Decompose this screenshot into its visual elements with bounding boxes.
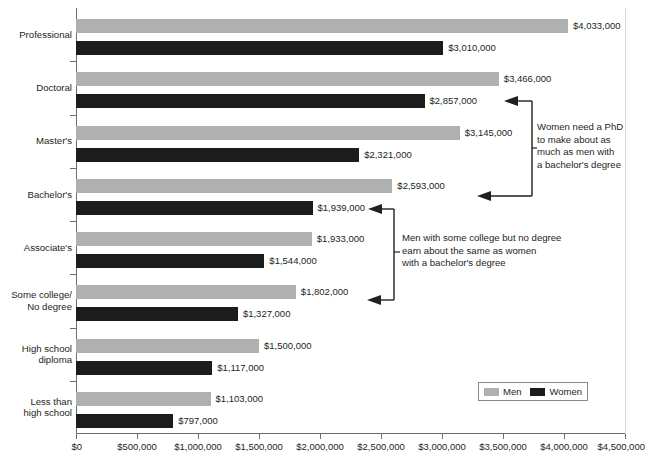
bar-men [76, 19, 568, 33]
bar-men [76, 72, 499, 86]
bar-value-label: $1,103,000 [216, 392, 264, 406]
bar-value-label: $3,010,000 [448, 41, 496, 55]
x-axis-tick [137, 434, 138, 439]
x-axis-tick [564, 434, 565, 439]
bar-men [76, 392, 211, 406]
y-axis-tick [70, 115, 76, 116]
category-label-text: High school diploma [4, 343, 72, 366]
bar-men [76, 232, 312, 246]
chart-legend: Men Women [478, 382, 588, 401]
bar-value-label: $1,802,000 [301, 285, 349, 299]
earnings-by-education-bar-chart: ProfessionalDoctoralMaster'sBachelor'sAs… [0, 0, 651, 466]
y-axis-tick [70, 168, 76, 169]
category-label-text: Doctoral [4, 82, 72, 93]
bar-value-label: $1,933,000 [317, 232, 365, 246]
bar-women [76, 41, 443, 55]
x-axis-tick [503, 434, 504, 439]
x-axis-tick-label: $1,500,000 [235, 441, 283, 452]
x-axis-tick [625, 434, 626, 439]
category-label-text: Some college/ No degree [4, 289, 72, 312]
bar-value-label: $3,145,000 [465, 126, 513, 140]
bar-women [76, 361, 212, 375]
bar-women [76, 148, 359, 162]
annotation-text-phd: Women need a PhD to make about as much a… [537, 121, 651, 171]
x-axis-tick-label: $2,000,000 [296, 441, 344, 452]
bar-men [76, 285, 296, 299]
category-label-text: Master's [4, 135, 72, 146]
bar-value-label: $2,593,000 [397, 179, 445, 193]
bar-women [76, 414, 173, 428]
legend-item-men: Men [484, 387, 521, 397]
x-axis-tick-label: $500,000 [117, 441, 157, 452]
bar-men [76, 339, 259, 353]
legend-label-men: Men [503, 387, 521, 397]
annotation-text-some-college: Men with some college but no degree earn… [402, 232, 602, 270]
bar-value-label: $797,000 [178, 414, 218, 428]
y-axis-tick [70, 274, 76, 275]
bar-women [76, 307, 238, 321]
x-axis-tick-label: $3,500,000 [479, 441, 527, 452]
x-axis-tick [76, 434, 77, 439]
y-axis-tick [70, 61, 76, 62]
bar-women [76, 201, 313, 215]
bar-value-label: $1,500,000 [264, 339, 312, 353]
legend-item-women: Women [530, 387, 582, 397]
bar-men [76, 126, 460, 140]
legend-label-women: Women [549, 387, 582, 397]
x-axis-tick [381, 434, 382, 439]
bar-value-label: $2,857,000 [430, 94, 478, 108]
category-label-text: Bachelor's [4, 189, 72, 200]
bar-men [76, 179, 392, 193]
category-label-text: Professional [4, 29, 72, 40]
x-axis-tick-label: $3,000,000 [418, 441, 466, 452]
bar-women [76, 94, 425, 108]
x-axis-tick [442, 434, 443, 439]
x-axis-tick-label: $1,000,000 [174, 441, 222, 452]
bar-value-label: $1,327,000 [243, 307, 291, 321]
bar-value-label: $1,544,000 [269, 254, 317, 268]
x-axis-tick-label: $4,500,000 [597, 441, 645, 452]
x-axis-tick-label: $4,000,000 [540, 441, 588, 452]
bar-value-label: $2,321,000 [364, 148, 412, 162]
bar-value-label: $1,939,000 [318, 201, 366, 215]
bar-value-label: $1,117,000 [217, 361, 264, 375]
y-axis-tick [70, 381, 76, 382]
x-axis-tick [198, 434, 199, 439]
y-axis-tick [70, 328, 76, 329]
y-axis-tick [70, 221, 76, 222]
x-axis-tick-label: $2,500,000 [357, 441, 405, 452]
category-label-text: Associate's [4, 242, 72, 253]
plot-area-right-edge [625, 8, 626, 434]
x-axis-tick [259, 434, 260, 439]
bar-value-label: $4,033,000 [573, 19, 621, 33]
bar-women [76, 254, 264, 268]
bar-value-label: $3,466,000 [504, 72, 552, 86]
x-axis-tick-label: $0 [72, 441, 83, 452]
legend-swatch-women-icon [530, 388, 545, 396]
category-label-text: Less than high school [4, 396, 72, 419]
x-axis-tick [320, 434, 321, 439]
legend-swatch-men-icon [484, 388, 499, 396]
